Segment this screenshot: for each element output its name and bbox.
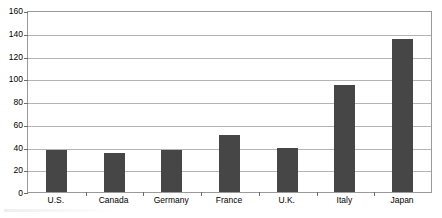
y-tick-mark-60 bbox=[24, 126, 28, 127]
gridline-140 bbox=[28, 35, 431, 36]
bar-chart: 160 140 120 100 80 60 40 20 0 bbox=[0, 0, 442, 218]
bar-germany bbox=[161, 150, 182, 192]
page-artifact bbox=[4, 209, 114, 212]
y-tick-mark-20 bbox=[24, 171, 28, 172]
gridline-60 bbox=[28, 126, 431, 127]
y-axis-tick-label-20: 20 bbox=[0, 166, 23, 174]
y-tick-mark-140 bbox=[24, 35, 28, 36]
y-axis-tick-label-100: 100 bbox=[0, 75, 23, 83]
y-axis-tick-label-60: 60 bbox=[0, 121, 23, 129]
bar-japan bbox=[392, 39, 413, 192]
y-axis-tick-label-0: 0 bbox=[0, 189, 23, 197]
bar-canada bbox=[104, 153, 125, 192]
bar-uk bbox=[277, 148, 298, 192]
bar-italy bbox=[334, 85, 355, 192]
y-axis-tick-label-140: 140 bbox=[0, 30, 23, 38]
y-axis-tick-label-40: 40 bbox=[0, 144, 23, 152]
bar-france bbox=[219, 135, 240, 192]
y-tick-mark-120 bbox=[24, 58, 28, 59]
gridline-80 bbox=[28, 103, 431, 104]
y-axis-tick-label-160: 160 bbox=[0, 7, 23, 15]
plot-area bbox=[27, 11, 432, 193]
x-axis-tick-label-canada: Canada bbox=[85, 196, 143, 205]
x-axis-tick-label-france: France bbox=[200, 196, 258, 205]
gridline-100 bbox=[28, 80, 431, 81]
y-tick-mark-40 bbox=[24, 149, 28, 150]
x-axis-tick-label-uk: U.K. bbox=[258, 196, 316, 205]
y-tick-mark-80 bbox=[24, 103, 28, 104]
x-axis-tick-label-germany: Germany bbox=[142, 196, 200, 205]
x-axis-tick-label-italy: Italy bbox=[316, 196, 374, 205]
gridline-120 bbox=[28, 58, 431, 59]
x-axis-tick-label-japan: Japan bbox=[373, 196, 431, 205]
y-tick-mark-0 bbox=[24, 193, 28, 194]
y-axis-tick-label-120: 120 bbox=[0, 53, 23, 61]
y-tick-mark-100 bbox=[24, 80, 28, 81]
bar-us bbox=[46, 150, 67, 192]
x-axis-tick-label-us: U.S. bbox=[27, 196, 85, 205]
y-tick-mark-160 bbox=[24, 12, 28, 13]
y-axis-tick-label-80: 80 bbox=[0, 98, 23, 106]
